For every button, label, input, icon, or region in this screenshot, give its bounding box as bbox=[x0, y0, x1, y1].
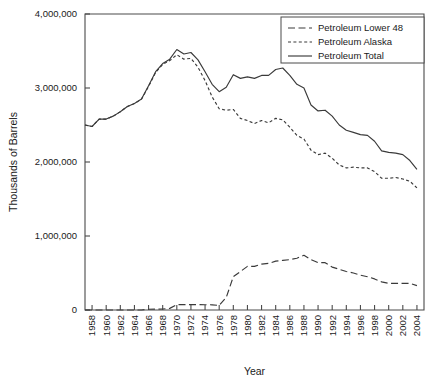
x-tick-label: 1974 bbox=[199, 315, 210, 336]
y-axis-label: Thousands of Barrels bbox=[7, 112, 19, 212]
series-line-petroleum-lower-48 bbox=[85, 55, 417, 188]
y-tick-label: 1,000,000 bbox=[35, 230, 77, 241]
x-tick-label: 1992 bbox=[327, 315, 338, 336]
x-axis-label: Year bbox=[244, 365, 266, 377]
y-tick-label: 3,000,000 bbox=[35, 82, 77, 93]
x-tick-label: 1998 bbox=[369, 315, 380, 336]
chart-figure: 01,000,0002,000,0003,000,0004,000,000195… bbox=[0, 0, 438, 383]
x-tick-label: 1996 bbox=[355, 315, 366, 336]
x-tick-label: 2000 bbox=[383, 315, 394, 336]
x-tick-label: 1984 bbox=[270, 315, 281, 336]
y-tick-label: 0 bbox=[72, 304, 77, 315]
x-tick-label: 1982 bbox=[256, 315, 267, 336]
y-tick-label: 4,000,000 bbox=[35, 8, 77, 19]
x-tick-label: 1964 bbox=[129, 315, 140, 336]
y-tick-label: 2,000,000 bbox=[35, 156, 77, 167]
legend-label-2: Petroleum Total bbox=[318, 50, 384, 61]
x-tick-label: 1986 bbox=[284, 315, 295, 336]
x-tick-label: 1994 bbox=[341, 315, 352, 336]
x-tick-label: 1976 bbox=[214, 315, 225, 336]
line-chart: 01,000,0002,000,0003,000,0004,000,000195… bbox=[0, 0, 438, 383]
x-tick-label: 1978 bbox=[228, 315, 239, 336]
x-tick-label: 1960 bbox=[101, 315, 112, 336]
x-tick-label: 1970 bbox=[171, 315, 182, 336]
x-tick-label: 1972 bbox=[185, 315, 196, 336]
x-tick-label: 1958 bbox=[86, 315, 97, 336]
x-tick-label: 1990 bbox=[312, 315, 323, 336]
x-tick-label: 1980 bbox=[242, 315, 253, 336]
series-line-petroleum-total bbox=[85, 50, 417, 170]
legend-label-0: Petroleum Lower 48 bbox=[318, 22, 403, 33]
x-tick-label: 1962 bbox=[115, 315, 126, 336]
x-tick-label: 1966 bbox=[143, 315, 154, 336]
x-tick-label: 2002 bbox=[397, 315, 408, 336]
x-tick-label: 1988 bbox=[298, 315, 309, 336]
x-tick-label: 2004 bbox=[411, 315, 422, 336]
series-line-petroleum-alaska bbox=[85, 255, 417, 310]
x-tick-label: 1968 bbox=[157, 315, 168, 336]
legend-label-1: Petroleum Alaska bbox=[318, 36, 393, 47]
